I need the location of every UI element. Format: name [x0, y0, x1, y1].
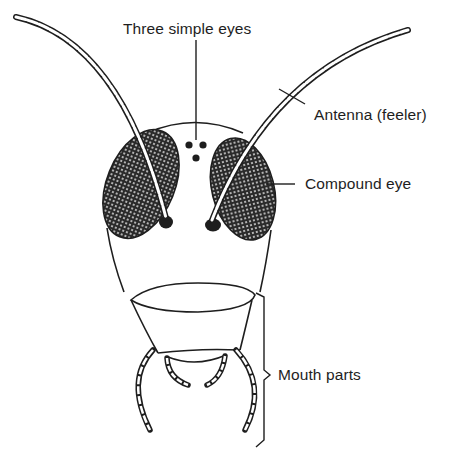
insect-head-diagram: Three simple eyes Antenna (feeler) Compo…	[0, 0, 473, 465]
label-mouth-parts: Mouth parts	[278, 366, 361, 384]
label-antenna: Antenna (feeler)	[314, 106, 427, 124]
insect-head-drawing	[0, 0, 473, 465]
mouth-parts-bracket	[256, 293, 270, 447]
label-simple-eyes: Three simple eyes	[123, 20, 251, 38]
label-compound-eye: Compound eye	[305, 175, 411, 193]
simple-eyes	[185, 141, 206, 161]
